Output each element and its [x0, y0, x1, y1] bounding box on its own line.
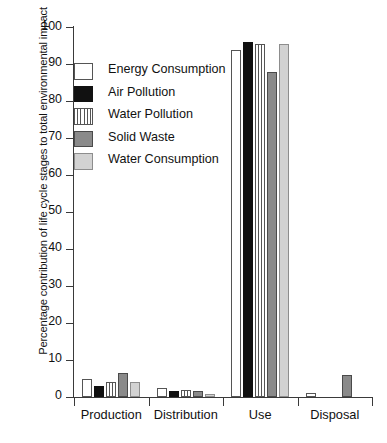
x-axis-label-production: Production — [74, 407, 149, 422]
legend-item-label: Water Consumption — [108, 152, 219, 166]
legend-swatch-icon — [74, 86, 93, 103]
y-tick-mark — [66, 64, 74, 65]
chart-figure: Percentage contribution of life cycle st… — [0, 0, 387, 443]
y-tick-label: 10 — [16, 351, 62, 365]
y-tick-label: 100 — [16, 19, 62, 33]
y-tick-label: 90 — [16, 55, 62, 69]
y-tick-mark — [66, 101, 74, 102]
plot-area — [74, 27, 372, 397]
bar — [342, 375, 352, 397]
y-tick-mark — [66, 212, 74, 213]
y-tick-mark — [66, 360, 74, 361]
bar — [118, 373, 128, 397]
bar — [193, 391, 203, 397]
legend-swatch-icon — [74, 153, 93, 170]
bar — [82, 379, 92, 397]
legend-item-label: Solid Waste — [108, 130, 175, 144]
x-axis-label-use: Use — [223, 407, 298, 422]
legend-swatch-icon — [74, 131, 93, 148]
legend-item-label: Air Pollution — [108, 85, 175, 99]
legend-item-label: Energy Consumption — [108, 62, 226, 76]
x-tick-mark — [298, 397, 299, 406]
y-tick-mark — [66, 286, 74, 287]
x-tick-mark — [74, 397, 75, 406]
bar — [130, 382, 140, 397]
y-tick-label: 0 — [16, 388, 62, 402]
y-tick-mark — [66, 323, 74, 324]
bar — [255, 44, 265, 397]
y-tick-label: 30 — [16, 277, 62, 291]
bar — [306, 393, 316, 397]
y-tick-mark — [66, 138, 74, 139]
bar — [181, 390, 191, 397]
legend-swatch-icon — [74, 108, 93, 125]
bar — [106, 382, 116, 397]
bar — [169, 391, 179, 397]
bar — [267, 72, 277, 397]
legend-item-label: Water Pollution — [108, 107, 193, 121]
y-tick-label: 60 — [16, 166, 62, 180]
bar — [231, 50, 241, 397]
x-axis-label-distribution: Distribution — [149, 407, 224, 422]
y-tick-mark — [66, 27, 74, 28]
legend-swatch-icon — [74, 63, 93, 80]
y-tick-label: 70 — [16, 129, 62, 143]
bar — [243, 42, 253, 397]
y-tick-label: 40 — [16, 240, 62, 254]
x-axis-label-disposal: Disposal — [298, 407, 373, 422]
bar — [94, 386, 104, 397]
bar — [157, 388, 167, 397]
y-tick-label: 20 — [16, 314, 62, 328]
y-tick-label: 80 — [16, 92, 62, 106]
x-tick-mark — [223, 397, 224, 406]
x-tick-mark — [149, 397, 150, 406]
y-tick-mark — [66, 397, 74, 398]
x-tick-mark — [372, 397, 373, 406]
bar — [205, 394, 215, 397]
y-tick-mark — [66, 249, 74, 250]
y-tick-mark — [66, 175, 74, 176]
y-tick-label: 50 — [16, 203, 62, 217]
bar — [279, 44, 289, 397]
